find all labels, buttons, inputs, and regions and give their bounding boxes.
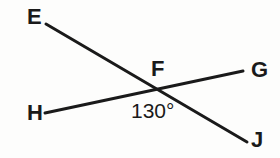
point-label-E: E [27,6,42,28]
geometry-diagram: E F G H J 130° [0,0,280,158]
point-label-J: J [251,129,263,151]
lines-canvas [0,0,280,158]
angle-measure-label: 130° [131,100,174,121]
point-label-H: H [27,102,43,124]
point-label-G: G [251,59,268,81]
point-label-F: F [151,58,164,80]
